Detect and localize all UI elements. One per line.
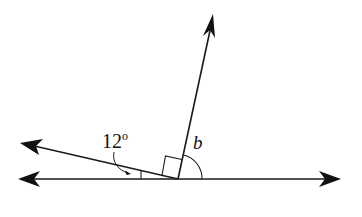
angle-b-arc [184, 155, 203, 179]
upward-ray [178, 14, 215, 179]
angle-diagram: 12o b [0, 0, 362, 217]
pointer-arrowhead-icon [125, 171, 131, 176]
diagram-svg: 12o b [0, 0, 362, 217]
angle-12-pointer [114, 152, 128, 173]
left-ray [20, 139, 178, 179]
unknown-angle-label: b [193, 132, 203, 153]
known-angle-label: 12o [102, 129, 128, 152]
